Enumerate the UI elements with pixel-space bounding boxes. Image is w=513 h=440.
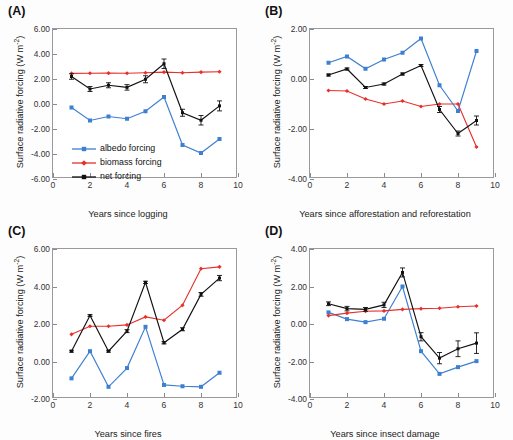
y-tick-label: 6.00: [34, 244, 50, 254]
x-tick-label: 8: [199, 400, 204, 410]
panel-b: (B) Surface radiative forcing (W m-2) -4…: [257, 0, 513, 220]
series-layer: [53, 249, 238, 399]
x-tick-mark: [495, 393, 496, 397]
panel-d-plot-area: -4.00-2.000.002.004.000246810: [309, 248, 494, 398]
series-biomass: [326, 88, 478, 149]
series-net: [326, 268, 479, 364]
legend-key-albedo-icon: [71, 144, 97, 154]
series-albedo: [327, 285, 479, 376]
panel-d: (D) Surface radiative forcing (W m-2) -4…: [257, 220, 513, 440]
x-tick-label: 2: [345, 180, 350, 190]
x-tick-label: 2: [88, 400, 93, 410]
legend-key-net-icon: [71, 172, 97, 182]
y-tick-label: -2.00: [31, 394, 50, 404]
series-net: [69, 59, 222, 125]
legend-item-net: net forcing: [71, 170, 162, 184]
y-tick-label: 0.00: [291, 74, 307, 84]
panel-a: (A) Surface radiative forcing (W m-2) -6…: [0, 0, 256, 220]
x-tick-label: 4: [125, 400, 130, 410]
y-tick-label: -4.00: [288, 174, 307, 184]
series-net: [69, 275, 222, 352]
legend: albedo forcingbiomass forcingnet forcing: [71, 142, 162, 184]
x-tick-label: 8: [199, 180, 204, 190]
panel-d-ylabel: Surface radiative forcing (W m-2): [270, 247, 282, 397]
y-tick-label: 2.00: [34, 319, 50, 329]
y-tick-label: 2.00: [34, 74, 50, 84]
y-tick-label: -6.00: [31, 174, 50, 184]
panel-a-ylabel: Surface radiative forcing (W m-2): [13, 27, 25, 177]
panel-c-label: (C): [8, 224, 25, 238]
x-tick-label: 10: [233, 180, 243, 190]
legend-label-biomass: biomass forcing: [100, 158, 162, 167]
y-tick-label: 0.00: [34, 357, 50, 367]
y-tick-label: 0.00: [291, 319, 307, 329]
panel-b-xlabel: Years since afforestation and reforestat…: [257, 209, 513, 219]
x-tick-label: 8: [456, 400, 461, 410]
x-tick-mark: [238, 173, 239, 177]
y-tick-label: 2.00: [291, 24, 307, 34]
x-tick-label: 10: [490, 180, 500, 190]
y-tick-label: -2.00: [31, 124, 50, 134]
legend-label-net: net forcing: [100, 172, 141, 181]
panel-b-plot-area: -4.00-2.000.002.000246810: [309, 28, 494, 178]
x-tick-label: 0: [51, 400, 56, 410]
legend-item-albedo: albedo forcing: [71, 142, 162, 156]
panel-c: (C) Surface radiative forcing (W m-2) -2…: [0, 220, 256, 440]
series-layer: [310, 29, 495, 179]
y-tick-label: -4.00: [288, 394, 307, 404]
legend-label-albedo: albedo forcing: [100, 144, 155, 153]
x-tick-label: 8: [456, 180, 461, 190]
x-tick-label: 6: [162, 400, 167, 410]
y-tick-label: 6.00: [34, 24, 50, 34]
legend-key-biomass-icon: [71, 158, 97, 168]
panel-c-xlabel: Years since fires: [0, 429, 256, 439]
panel-c-ylabel: Surface radiative forcing (W m-2): [13, 247, 25, 397]
y-tick-label: 4.00: [291, 244, 307, 254]
legend-item-biomass: biomass forcing: [71, 156, 162, 170]
panel-a-xlabel: Years since logging: [0, 209, 256, 219]
panel-a-label: (A): [8, 4, 25, 18]
series-layer: [310, 249, 495, 399]
x-tick-label: 4: [382, 180, 387, 190]
y-tick-label: 2.00: [291, 282, 307, 292]
x-tick-label: 0: [308, 180, 313, 190]
y-tick-label: 4.00: [34, 49, 50, 59]
y-tick-label: -2.00: [288, 124, 307, 134]
panel-b-label: (B): [265, 4, 282, 18]
x-tick-label: 0: [51, 180, 56, 190]
panel-b-ylabel: Surface radiative forcing (W m-2): [270, 27, 282, 177]
x-tick-label: 0: [308, 400, 313, 410]
panel-c-plot-area: -2.000.002.004.006.000246810: [52, 248, 237, 398]
x-tick-label: 6: [419, 400, 424, 410]
y-tick-label: -2.00: [288, 357, 307, 367]
panel-d-xlabel: Years since insect damage: [257, 429, 513, 439]
x-tick-label: 10: [233, 400, 243, 410]
series-biomass: [69, 70, 221, 76]
x-tick-label: 6: [162, 180, 167, 190]
x-tick-mark: [238, 393, 239, 397]
y-tick-label: 4.00: [34, 282, 50, 292]
panel-a-plot-area: -6.00-4.00-2.000.002.004.006.000246810al…: [52, 28, 237, 178]
figure-container: (A) Surface radiative forcing (W m-2) -6…: [0, 0, 513, 440]
series-albedo: [70, 325, 222, 389]
x-tick-label: 6: [419, 180, 424, 190]
x-tick-label: 2: [345, 400, 350, 410]
x-tick-label: 10: [490, 400, 500, 410]
y-tick-label: 0.00: [34, 99, 50, 109]
x-tick-label: 4: [382, 400, 387, 410]
x-tick-mark: [495, 173, 496, 177]
panel-d-label: (D): [265, 224, 282, 238]
y-tick-label: -4.00: [31, 149, 50, 159]
